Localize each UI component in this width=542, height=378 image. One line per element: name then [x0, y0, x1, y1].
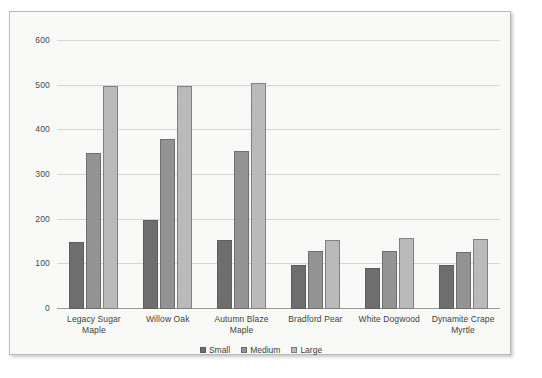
chart-legend: SmallMediumLarge [10, 345, 512, 355]
legend-swatch-icon [200, 347, 206, 353]
category-label: Autumn Blaze Maple [205, 314, 279, 336]
bar-medium[interactable] [382, 251, 397, 309]
legend-label: Large [300, 345, 322, 355]
y-axis-tick-label: 300 [35, 169, 50, 179]
bar-group [205, 41, 279, 309]
category-label: White Dogwood [352, 314, 426, 325]
bar-large[interactable] [325, 240, 340, 309]
category-axis-labels: Legacy Sugar MapleWillow OakAutumn Blaze… [57, 314, 500, 348]
legend-swatch-icon [241, 347, 247, 353]
bar-medium[interactable] [308, 251, 323, 309]
legend-label: Medium [250, 345, 280, 355]
y-axis-tick-label: 100 [35, 258, 50, 268]
bar-small[interactable] [365, 268, 380, 309]
bar-group [131, 41, 205, 309]
legend-item-large[interactable]: Large [291, 345, 322, 355]
bar-small[interactable] [69, 242, 84, 309]
legend-item-medium[interactable]: Medium [241, 345, 280, 355]
bar-small[interactable] [143, 220, 158, 309]
plot-area: 0100200300400500600 [57, 41, 500, 309]
bar-group [279, 41, 353, 309]
category-label: Dynamite Crape Myrtle [426, 314, 500, 336]
y-axis-tick-label: 200 [35, 214, 50, 224]
y-axis-tick-label: 600 [35, 35, 50, 45]
legend-label: Small [209, 345, 230, 355]
category-label: Legacy Sugar Maple [57, 314, 131, 336]
bar-large[interactable] [473, 239, 488, 309]
category-label: Willow Oak [131, 314, 205, 325]
y-axis-tick-label: 500 [35, 80, 50, 90]
bar-small[interactable] [291, 265, 306, 309]
bar-group [57, 41, 131, 309]
bar-group [352, 41, 426, 309]
bar-large[interactable] [177, 86, 192, 309]
legend-item-small[interactable]: Small [200, 345, 230, 355]
bar-medium[interactable] [234, 151, 249, 309]
bar-group [426, 41, 500, 309]
bar-medium[interactable] [86, 153, 101, 309]
bar-large[interactable] [103, 86, 118, 309]
bar-small[interactable] [439, 265, 454, 309]
category-label: Bradford Pear [279, 314, 353, 325]
bar-large[interactable] [399, 238, 414, 309]
bar-medium[interactable] [160, 139, 175, 309]
bar-small[interactable] [217, 240, 232, 309]
bar-medium[interactable] [456, 252, 471, 309]
y-axis-tick-label: 400 [35, 124, 50, 134]
bars-layer [57, 41, 500, 309]
legend-swatch-icon [291, 347, 297, 353]
chart-frame: 0100200300400500600 Legacy Sugar MapleWi… [9, 11, 511, 355]
bar-large[interactable] [251, 83, 266, 309]
y-axis-tick-label: 0 [45, 303, 50, 313]
